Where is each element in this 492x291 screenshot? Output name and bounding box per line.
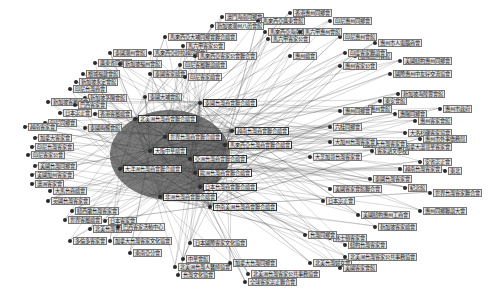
- hub-node[interactable]: 泰國台灣商會聯合總會: [198, 99, 257, 107]
- graph-node[interactable]: 泰國大埔會館: [143, 93, 182, 101]
- graph-node[interactable]: 美國客家會館聯合會: [328, 185, 382, 193]
- node-marker-icon: [368, 177, 372, 181]
- graph-node[interactable]: 加拿大台灣客家文化協會: [108, 237, 172, 245]
- node-marker-icon: [228, 261, 232, 265]
- graph-node[interactable]: 美國紐約惠州工商會: [356, 211, 410, 219]
- node-label: 惠州市政府: [443, 105, 472, 113]
- graph-node[interactable]: 惠州市人電腦商會: [373, 39, 422, 47]
- node-marker-icon: [188, 157, 192, 161]
- node-label: 北美洲台灣人醫師協會: [178, 263, 232, 271]
- graph-node[interactable]: 英國台灣客家會: [46, 197, 90, 205]
- graph-node[interactable]: 越南台灣客家會: [398, 165, 442, 173]
- graph-node[interactable]: 北美洲台灣客家公共事務協會: [246, 270, 320, 278]
- graph-node[interactable]: 印尼惠州同鄉會: [328, 17, 372, 25]
- graph-node[interactable]: 新加坡客家總會: [373, 223, 417, 231]
- graph-node[interactable]: 泰國客家總會: [148, 70, 187, 78]
- graph-node[interactable]: 台灣同鄉會: [303, 231, 337, 239]
- hub-node[interactable]: 大洋洲台灣商會聯合總會: [118, 165, 182, 173]
- graph-node[interactable]: 泰國台灣客家會: [368, 175, 412, 183]
- node-label: 紐西蘭台灣客家會: [75, 207, 119, 215]
- graph-node[interactable]: 巴西客家會: [73, 101, 107, 109]
- graph-node[interactable]: 日本崇正會: [321, 197, 355, 205]
- graph-node[interactable]: 巴西客家活動中心: [116, 223, 165, 231]
- graph-node[interactable]: 紀念館: [403, 184, 427, 192]
- graph-node[interactable]: 大加州台灣客家會: [328, 138, 377, 146]
- node-label: 台灣文化協會: [181, 271, 215, 279]
- graph-node[interactable]: 大馬台商總會: [48, 187, 87, 195]
- graph-node[interactable]: 北美洲台灣人醫師協會: [173, 263, 232, 271]
- hub-node[interactable]: 北美洲台灣商會聯合總會: [133, 115, 197, 123]
- hub-node[interactable]: 馬來西亞台灣商會聯合總會: [223, 141, 292, 149]
- graph-node[interactable]: 惠陽同鄉會: [393, 110, 427, 118]
- graph-node[interactable]: 檳城福建會館: [81, 70, 120, 78]
- graph-node[interactable]: 惠州同鄉會: [338, 107, 372, 115]
- hub-node[interactable]: 大阪中華總會: [148, 147, 187, 155]
- node-marker-icon: [193, 171, 197, 175]
- node-marker-icon: [388, 72, 392, 76]
- graph-node[interactable]: 全球客家崇正聯合會: [243, 278, 297, 286]
- graph-node[interactable]: 泰國梅縣會館: [83, 124, 122, 132]
- graph-node[interactable]: 加拿大客家會: [33, 134, 72, 142]
- node-marker-icon: [403, 186, 407, 190]
- graph-node[interactable]: 美國紐約惠州同鄉會: [398, 57, 452, 65]
- graph-node[interactable]: 印尼惠州會館: [338, 33, 377, 41]
- graph-node[interactable]: 多倫多客家會: [68, 237, 107, 245]
- node-label: 香港客屬總會: [98, 110, 132, 118]
- graph-node[interactable]: 新加坡潮州八邑會館: [210, 22, 264, 30]
- hub-node[interactable]: 歐洲台灣商會聯合總會: [193, 169, 252, 177]
- graph-node[interactable]: 日本崇正會: [58, 109, 92, 117]
- graph-node[interactable]: 惠州客家公會: [338, 62, 377, 70]
- graph-node[interactable]: 印尼台灣客家會: [30, 143, 74, 151]
- graph-node[interactable]: 六桂同鄉會: [328, 123, 362, 131]
- node-marker-icon: [46, 100, 50, 104]
- graph-node[interactable]: 加拿大台灣同鄉會: [228, 259, 277, 267]
- graph-node[interactable]: 惠州同鄉聯誼大會: [418, 207, 467, 215]
- graph-node[interactable]: 惠州客家會館: [413, 117, 452, 125]
- graph-node[interactable]: 國際惠州中友好交流協會: [388, 70, 452, 78]
- graph-node[interactable]: 馬六甲客家公會: [266, 35, 310, 43]
- graph-node[interactable]: 北美洲台灣客家公共事務協會: [343, 253, 417, 261]
- hub-node[interactable]: 日本台灣商會聯合總會: [198, 183, 257, 191]
- graph-node[interactable]: 日本國際客家文化協會: [188, 239, 247, 247]
- node-marker-icon: [198, 101, 202, 105]
- node-label: 泰國梅縣會館: [88, 124, 122, 132]
- graph-node[interactable]: 香港客屬總會: [93, 110, 132, 118]
- graph-node[interactable]: 泰國潮州會館: [108, 49, 147, 57]
- graph-node[interactable]: 美國台灣同鄉會: [33, 162, 77, 170]
- graph-node[interactable]: 越南客家會: [23, 123, 57, 131]
- hub-node[interactable]: 越南台灣商會聯合總會: [230, 127, 289, 135]
- graph-node[interactable]: 東南亞分會: [128, 249, 162, 257]
- graph-node[interactable]: 新加坡福州會館: [118, 60, 162, 68]
- hub-node[interactable]: 亞洲台灣商會聯合總會: [188, 155, 247, 163]
- hub-node[interactable]: 非洲台灣商會聯合總會: [158, 193, 217, 201]
- graph-node[interactable]: 東北: [443, 167, 462, 175]
- hub-node[interactable]: 中南美洲台灣商會聯合總會: [208, 203, 277, 211]
- graph-node[interactable]: 印尼台灣商會: [68, 85, 107, 93]
- graph-node[interactable]: 美國客家會館: [338, 264, 377, 272]
- graph-node[interactable]: 馬來西亞大埔同鄉會聯合總會: [163, 33, 237, 41]
- graph-node[interactable]: 中華會館: [181, 255, 210, 263]
- graph-node[interactable]: 世界客屬總會: [63, 216, 102, 224]
- graph-node[interactable]: 台灣文化協會: [176, 271, 215, 279]
- node-marker-icon: [163, 35, 167, 39]
- graph-node[interactable]: 世界台灣客家聯合會: [428, 189, 482, 197]
- graph-node[interactable]: 印尼客屬聯誼總會: [178, 61, 227, 69]
- hub-node[interactable]: 世界台灣商會聯合總會: [163, 133, 222, 141]
- node-marker-icon: [68, 87, 72, 91]
- graph-node[interactable]: 大芝加哥台灣客家會: [308, 153, 362, 161]
- graph-node[interactable]: 印尼客家公會: [26, 151, 65, 159]
- graph-node[interactable]: 東安會館: [378, 97, 407, 105]
- node-marker-icon: [103, 219, 107, 223]
- graph-node[interactable]: 紐約台灣客家會: [343, 241, 387, 249]
- graph-node[interactable]: 安省崇正會: [418, 158, 452, 166]
- graph-node[interactable]: 惠州市政府: [438, 105, 472, 113]
- graph-node[interactable]: 馬六甲惠州會館: [298, 28, 342, 36]
- graph-node[interactable]: 美國加州客家會: [30, 171, 74, 179]
- graph-node[interactable]: 香港惠州同鄉會: [288, 9, 332, 17]
- graph-node[interactable]: 紐西蘭台灣客家會: [70, 207, 119, 215]
- graph-node[interactable]: 惠州總會: [288, 52, 317, 60]
- graph-node[interactable]: 惠州市外事僑務局: [418, 135, 467, 143]
- graph-node[interactable]: 印度客家聯誼會: [343, 49, 387, 57]
- graph-node[interactable]: 印尼客家總會: [183, 73, 222, 81]
- graph-node[interactable]: 馬來西亞客家公會聯合會: [193, 52, 257, 60]
